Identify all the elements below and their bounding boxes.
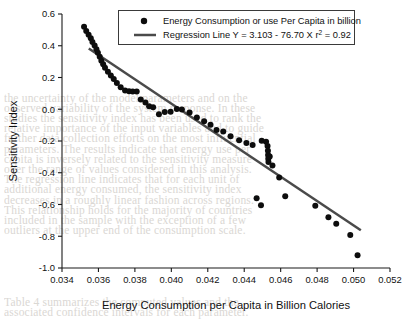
chart-figure: the uncertainty of the model parameters … [0,0,413,331]
x-tick-label: 0.044 [232,274,255,285]
x-tick-label: 0.048 [305,274,328,285]
data-point [168,109,174,115]
data-point [355,252,361,258]
regression-line [89,49,361,231]
data-point [347,232,353,238]
y-tick-label: 0.6 [42,8,55,19]
x-tick-label: 0.046 [269,274,292,285]
y-axis-ticks: 0.60.40.20.0-0.2-0.4-0.6-0.8-1.0 [39,8,62,273]
data-point [134,88,140,94]
x-tick-label: 0.052 [378,274,401,285]
data-point [276,175,282,181]
x-tick-label: 0.034 [50,274,73,285]
x-tick-label: 0.050 [342,274,365,285]
data-point [258,202,264,208]
x-axis-title: Energy Consumption per Capita in Billion… [102,299,351,311]
data-point [150,104,156,110]
data-point [194,115,200,121]
data-point [214,127,220,133]
data-point [220,128,226,134]
data-point [243,140,249,146]
data-point [201,118,207,124]
x-tick-label: 0.038 [123,274,146,285]
data-point [254,195,260,201]
data-point [156,111,162,117]
data-point [174,106,180,112]
data-point [269,163,275,169]
y-tick-label: -0.2 [39,135,55,146]
data-point [162,109,168,115]
data-point [333,221,339,227]
x-tick-label: 0.040 [160,274,183,285]
y-tick-label: 0.4 [42,40,55,51]
scatter-plot-svg: 0.60.40.20.0-0.2-0.4-0.6-0.8-1.0 0.0340.… [0,0,413,331]
x-axis-ticks: 0.0340.0360.0380.0400.0420.0440.0460.048… [50,268,401,285]
x-tick-label: 0.042 [196,274,219,285]
data-point [325,214,331,220]
legend-label-scatter: Energy Consumption or use Per Capita in … [163,16,361,26]
data-point [228,133,234,139]
y-axis-title: Sensitivity Index [7,100,19,181]
data-point [236,137,242,143]
y-tick-label: -0.8 [39,231,55,242]
y-tick-label: -1.0 [39,262,55,273]
data-point [179,107,185,113]
legend-label-regression: Regression Line Y = 3.103 - 76.70 X r2 =… [163,29,351,41]
legend-marker-scatter [141,18,147,24]
data-point [208,122,214,128]
data-point [187,109,193,115]
y-tick-label: -0.6 [39,199,55,210]
x-tick-label: 0.036 [87,274,110,285]
data-point [250,142,256,148]
data-points-group [81,24,361,259]
y-tick-label: 0.2 [42,72,55,83]
legend: Energy Consumption or use Per Capita in … [119,11,361,45]
y-tick-label: 0.0 [42,104,55,115]
y-tick-label: -0.4 [39,167,55,178]
data-point [267,154,273,160]
data-point [282,193,288,199]
data-point [312,203,318,209]
